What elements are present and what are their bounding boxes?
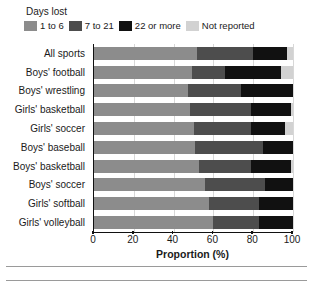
stacked-bar <box>94 84 293 97</box>
y-axis-label: Girls' volleyball <box>0 213 89 232</box>
bar-segment <box>241 84 293 97</box>
bar-segment <box>281 66 293 79</box>
y-axis-label: Girls' basketball <box>0 100 89 119</box>
bar-row <box>94 82 293 101</box>
bar-row <box>94 213 293 232</box>
bar-segment <box>94 122 194 135</box>
x-axis-tick-label: 80 <box>247 234 258 246</box>
bar-segment <box>287 47 293 60</box>
bar-segment <box>265 178 293 191</box>
bar-segment <box>94 47 197 60</box>
x-axis-tick-label: 60 <box>207 234 218 246</box>
x-axis-title: Proportion (%) <box>93 248 292 260</box>
bar-segment <box>94 160 199 173</box>
stacked-bar <box>94 160 293 173</box>
bar-segment <box>251 160 291 173</box>
y-axis-label: Boys' soccer <box>0 176 89 195</box>
legend-swatch-d22plus <box>119 21 132 31</box>
bar-row <box>94 100 293 119</box>
stacked-bar <box>94 66 293 79</box>
x-axis-tick-label: 100 <box>284 234 301 246</box>
bar-segment <box>94 178 205 191</box>
x-axis-ticks: 020406080100 <box>93 234 292 248</box>
bar-segment <box>197 47 253 60</box>
chart-legend: Days lost 1 to 67 to 2122 or moreNot rep… <box>24 6 298 31</box>
footer-divider-top <box>6 266 307 267</box>
legend-entry-d7_21: 7 to 21 <box>69 20 114 31</box>
legend-swatch-d7_21 <box>69 21 82 31</box>
bar-segment <box>205 178 265 191</box>
bar-segment <box>188 84 242 97</box>
y-axis-label: Boys' wrestling <box>0 82 89 101</box>
bar-segment <box>94 84 188 97</box>
bar-segment <box>192 66 226 79</box>
bar-segment <box>225 66 281 79</box>
legend-label-d7_21: 7 to 21 <box>85 20 114 31</box>
bar-segment <box>251 122 285 135</box>
x-axis-tick-label: 40 <box>167 234 178 246</box>
plot-area <box>93 44 293 233</box>
plot-wrapper: All sportsBoys' footballBoys' wrestlingG… <box>0 44 313 244</box>
bar-row <box>94 119 293 138</box>
bar-row <box>94 138 293 157</box>
bar-segment <box>94 66 192 79</box>
legend-swatch-not_reported <box>186 21 199 31</box>
stacked-bar <box>94 103 293 116</box>
gridline <box>293 44 294 232</box>
bar-segment <box>291 103 293 116</box>
bar-row <box>94 176 293 195</box>
bar-segment <box>263 141 293 154</box>
stacked-bar <box>94 122 293 135</box>
bar-row <box>94 194 293 213</box>
legend-title: Days lost <box>24 6 298 18</box>
bar-segment <box>94 216 213 229</box>
x-axis-tick-label: 20 <box>127 234 138 246</box>
bar-segment <box>195 141 263 154</box>
bar-segment <box>251 103 291 116</box>
bar-segment <box>94 141 195 154</box>
bar-row <box>94 63 293 82</box>
y-axis-label: All sports <box>0 44 89 63</box>
stacked-bar <box>94 216 293 229</box>
bar-series-container <box>94 44 293 232</box>
legend-swatch-d1_6 <box>24 21 37 31</box>
stacked-bar <box>94 141 293 154</box>
bar-segment <box>253 47 287 60</box>
bar-segment <box>190 103 252 116</box>
y-axis-label: Boys' basketball <box>0 157 89 176</box>
stacked-bar <box>94 178 293 191</box>
y-axis-label: Boys' football <box>0 63 89 82</box>
y-axis-label: Boys' baseball <box>0 138 89 157</box>
legend-entry-d1_6: 1 to 6 <box>24 20 64 31</box>
legend-label-d1_6: 1 to 6 <box>40 20 64 31</box>
bar-segment <box>259 197 293 210</box>
bar-segment <box>213 216 259 229</box>
footer-divider-bottom <box>6 280 307 281</box>
y-axis-label: Girls' soccer <box>0 119 89 138</box>
legend-entry-d22plus: 22 or more <box>119 20 181 31</box>
bar-segment <box>291 160 293 173</box>
y-axis-category-labels: All sportsBoys' footballBoys' wrestlingG… <box>0 44 89 232</box>
chart-figure: Days lost 1 to 67 to 2122 or moreNot rep… <box>0 0 313 285</box>
bar-row <box>94 44 293 63</box>
bar-segment <box>209 197 259 210</box>
bar-row <box>94 157 293 176</box>
x-axis-tick-label: 0 <box>90 234 96 246</box>
bar-segment <box>285 122 293 135</box>
legend-label-not_reported: Not reported <box>202 20 255 31</box>
y-axis-label: Girls' softball <box>0 194 89 213</box>
bar-segment <box>199 160 251 173</box>
bar-segment <box>94 197 209 210</box>
stacked-bar <box>94 197 293 210</box>
legend-label-d22plus: 22 or more <box>135 20 181 31</box>
bar-segment <box>94 103 190 116</box>
bar-segment <box>259 216 293 229</box>
bar-segment <box>194 122 252 135</box>
stacked-bar <box>94 47 293 60</box>
legend-items: 1 to 67 to 2122 or moreNot reported <box>24 20 298 31</box>
legend-entry-not_reported: Not reported <box>186 20 255 31</box>
